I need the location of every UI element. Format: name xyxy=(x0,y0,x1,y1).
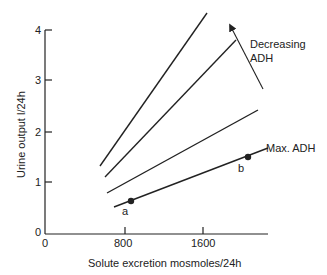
chart: 4 3 2 1 0 0 800 1600 Solute excretion mo… xyxy=(0,0,327,275)
x-tick-label-1600: 1600 xyxy=(191,237,215,249)
x-tick-label-0: 0 xyxy=(42,237,48,249)
point-a-marker xyxy=(128,198,134,204)
line-low-adh xyxy=(100,13,207,166)
decreasing-label-line1: Decreasing xyxy=(250,38,306,50)
max-adh-label: Max. ADH xyxy=(266,142,316,154)
x-tick-label-800: 800 xyxy=(114,237,132,249)
point-a-label: a xyxy=(122,205,129,217)
y-tick-label-2: 2 xyxy=(35,126,41,138)
y-tick-label-3: 3 xyxy=(35,74,41,86)
y-tick-label-1: 1 xyxy=(35,176,41,188)
series-lines xyxy=(100,13,268,207)
axes xyxy=(45,30,268,234)
y-axis-title: Urine output l/24h xyxy=(15,91,27,178)
y-tick-label-4: 4 xyxy=(35,24,41,36)
point-b-marker xyxy=(245,154,251,160)
line-intermediate-adh-2 xyxy=(105,40,236,177)
x-axis-title: Solute excretion mosmoles/24h xyxy=(88,257,241,269)
y-tick-label-0: 0 xyxy=(35,226,41,238)
decreasing-label-line2: ADH xyxy=(250,52,273,64)
point-b-label: b xyxy=(238,162,244,174)
